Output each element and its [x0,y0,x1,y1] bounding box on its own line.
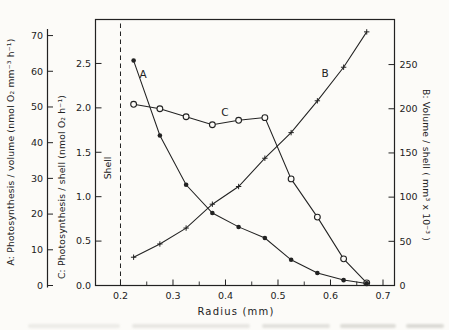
x-tick-label: 0.7 [375,290,390,301]
x-axis-title: Radius (mm) [197,306,274,317]
c-tick-label: 2.0 [76,102,91,113]
series-A-point [263,236,268,241]
x-tick-label: 0.6 [323,290,338,301]
series-C-point [288,176,294,182]
series-A-point [341,278,346,283]
chart-generated-layer: 0.20.30.40.50.60.70.00.51.01.52.02.50501… [31,20,418,301]
c-tick-label: 1.5 [76,147,91,158]
series-A-point [184,183,189,188]
b-tick-label: 200 [400,103,418,114]
series-C-point [131,101,137,107]
b-tick-label: 0 [400,280,406,291]
caption-fragment [28,324,120,328]
series-A-point [131,58,136,63]
c-tick-label: 0.0 [76,280,91,291]
series-A-point [315,271,320,276]
series-C-point [209,122,215,128]
caption-fragment [406,324,444,328]
a-tick-label: 60 [31,66,43,77]
scanned-figure-page: 0.20.30.40.50.60.70.00.51.01.52.02.50501… [0,0,449,330]
b-tick-label: 100 [400,191,418,202]
series-C-point [314,214,320,220]
series-A-letter-label: A [139,68,147,80]
a-tick-label: 0 [37,280,43,291]
series-C-point [236,117,242,123]
figure-caption-cutoff [0,323,449,330]
series-C-point [341,256,347,262]
left-axis-a-title: A: Photosynthesis / volume (nmol O₂ mm⁻³… [5,38,16,265]
series-A-point [289,257,294,262]
x-tick-label: 0.4 [218,290,233,301]
a-tick-label: 70 [31,30,43,41]
a-tick-label: 50 [31,101,43,112]
series-B-letter-label: B [321,67,328,79]
series-C-line [134,104,367,282]
b-tick-label: 250 [400,59,418,70]
series-A-point [364,281,369,286]
b-tick-label: 50 [400,236,412,247]
right-axis-b-title: B: Volume / shell ( mm³ x 10⁻³ ) [421,89,432,241]
c-tick-label: 1.0 [76,191,91,202]
series-A-line [134,61,367,284]
series-C-letter-label: C [221,106,228,118]
series-A-point [158,133,163,138]
c-tick-label: 2.5 [76,58,91,69]
a-tick-label: 40 [31,137,43,148]
shell-line-label: Shell [102,157,113,180]
x-tick-label: 0.2 [113,290,128,301]
series-C-point [262,115,268,121]
series-B-line [134,32,367,257]
caption-fragment [132,324,250,328]
caption-fragment [262,324,330,328]
series-A-point [210,211,215,216]
series-C-point [183,114,189,120]
a-tick-label: 30 [31,173,43,184]
series-C-point [157,106,163,112]
x-tick-label: 0.3 [165,290,180,301]
chart-canvas: 0.20.30.40.50.60.70.00.51.01.52.02.50501… [0,0,449,330]
left-axis-c-title: C: Photosynthesis / shell (nmol O₂ h⁻¹) [56,95,67,279]
a-tick-label: 20 [31,208,43,219]
b-tick-label: 150 [400,147,418,158]
series-A-point [236,225,241,230]
c-tick-label: 0.5 [76,235,91,246]
plot-box [96,20,395,286]
a-tick-label: 10 [31,244,43,255]
x-tick-label: 0.5 [270,290,285,301]
caption-fragment [340,324,396,328]
